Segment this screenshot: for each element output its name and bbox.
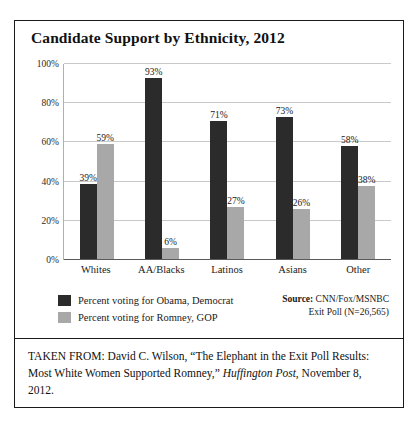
y-axis-tick-label: 80%	[42, 98, 59, 108]
legend-label: Percent voting for Romney, GOP	[78, 312, 218, 323]
bar: 38%	[358, 186, 375, 260]
bar-value-label: 39%	[79, 173, 96, 183]
plot-region: 0%20%40%60%80%100% 39%59%93%6%71%27%73%2…	[63, 64, 391, 260]
bar-value-label: 73%	[276, 106, 293, 116]
bar: 26%	[293, 209, 310, 260]
caption-divider	[15, 338, 403, 339]
bar-group: 93%6%	[145, 64, 179, 260]
bar-value-label: 26%	[293, 198, 310, 208]
y-axis-tick-label: 0%	[46, 255, 59, 265]
legend-item: Percent voting for Obama, Democrat	[58, 292, 273, 309]
x-axis-tick-label: Other	[325, 264, 391, 275]
bars-layer: 39%59%93%6%71%27%73%26%58%38%	[64, 64, 391, 260]
bar-value-label: 27%	[227, 196, 244, 206]
chart-title: Candidate Support by Ethnicity, 2012	[31, 29, 285, 47]
y-axis-tick-label: 20%	[42, 216, 59, 226]
source-note: Source: CNN/Fox/MSNBC Exit Poll (N=26,56…	[282, 293, 389, 319]
bar: 58%	[341, 146, 358, 260]
x-axis-line	[64, 259, 391, 260]
bar: 71%	[210, 121, 227, 260]
figure-caption: TAKEN FROM: David C. Wilson, “The Elepha…	[28, 348, 390, 399]
x-axis-tick-label: AA/Blacks	[129, 264, 195, 275]
bar-group: 39%59%	[80, 64, 114, 260]
y-axis-tick-label: 60%	[42, 137, 59, 147]
y-axis-tick-label: 100%	[37, 59, 59, 69]
source-line-2: Exit Poll (N=26,565)	[282, 306, 389, 319]
bar-value-label: 58%	[341, 135, 358, 145]
bar: 39%	[80, 184, 97, 260]
figure-panel: Candidate Support by Ethnicity, 2012 0%2…	[14, 20, 404, 408]
x-axis-tick-label: Whites	[63, 264, 129, 275]
bar: 93%	[145, 78, 162, 260]
bar-group: 58%38%	[341, 64, 375, 260]
bar: 73%	[276, 117, 293, 260]
source-text: CNN/Fox/MSNBC	[313, 294, 389, 304]
source-line-1: Source: CNN/Fox/MSNBC	[282, 293, 389, 306]
chart-legend: Percent voting for Obama, DemocratPercen…	[58, 292, 273, 326]
x-axis-labels: WhitesAA/BlacksLatinosAsiansOther	[63, 264, 391, 280]
bar: 59%	[97, 144, 114, 260]
bar-value-label: 93%	[145, 67, 162, 77]
legend-swatch	[58, 295, 71, 306]
bar: 27%	[227, 207, 244, 260]
bar-value-label: 59%	[96, 133, 113, 143]
legend-item: Percent voting for Romney, GOP	[58, 309, 273, 326]
caption-publication: Huffington Post	[223, 367, 296, 379]
legend-label: Percent voting for Obama, Democrat	[78, 295, 233, 306]
bar-value-label: 38%	[358, 175, 375, 185]
bar-group: 71%27%	[210, 64, 244, 260]
bar-value-label: 6%	[164, 237, 177, 247]
x-axis-tick-label: Latinos	[194, 264, 260, 275]
source-label: Source:	[282, 294, 313, 304]
bar-group: 73%26%	[276, 64, 310, 260]
x-axis-tick-label: Asians	[260, 264, 326, 275]
legend-swatch	[58, 312, 71, 323]
y-axis-tick-label: 40%	[42, 177, 59, 187]
plot-area: 0%20%40%60%80%100% 39%59%93%6%71%27%73%2…	[63, 64, 391, 260]
bar-value-label: 71%	[210, 110, 227, 120]
